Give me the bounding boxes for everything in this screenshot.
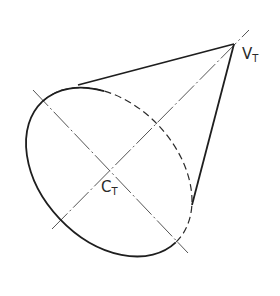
cone-upper-generator	[78, 44, 234, 85]
center-label-sub: T	[111, 186, 117, 197]
cone-diagram	[0, 0, 280, 296]
base-ellipse-visible-edge	[0, 102, 176, 290]
base-ellipse-left-outline	[42, 66, 104, 127]
center-label: CT	[101, 180, 118, 197]
base-ellipse-hidden-edge	[42, 55, 225, 243]
apex-label-sub: T	[252, 53, 258, 64]
center-label-main: C	[101, 178, 111, 196]
cone-axis-centerline	[52, 30, 249, 229]
apex-label-main: V	[242, 45, 252, 63]
apex-label: VT	[242, 47, 258, 64]
cone-right-generator	[192, 44, 234, 205]
